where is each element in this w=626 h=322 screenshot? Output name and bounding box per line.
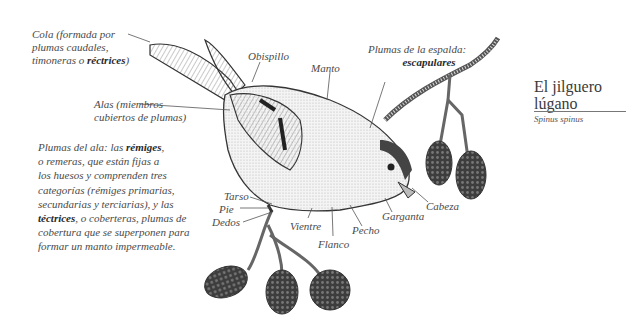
leader-obispillo — [252, 62, 260, 82]
leader-pecho — [350, 205, 362, 226]
label-alas: Alas (miembros cubiertos de plumas) — [94, 98, 186, 124]
leader-manto — [327, 72, 330, 100]
title-divider — [534, 111, 626, 112]
leader-flanco — [332, 207, 333, 236]
leader-escapulares — [370, 82, 385, 128]
label-vientre: Vientre — [290, 220, 321, 233]
alder-cone-lower-3 — [310, 270, 350, 310]
label-garganta: Garganta — [382, 210, 424, 223]
label-escapulares: Plumas de la espalda: escapulares — [368, 43, 466, 69]
label-pecho: Pecho — [352, 224, 379, 237]
alder-cone-upper-1 — [426, 141, 452, 185]
label-manto: Manto — [311, 62, 340, 75]
label-pie: Pie — [219, 203, 234, 216]
alder-cone-upper-2 — [456, 151, 486, 199]
label-tarso: Tarso — [224, 190, 249, 203]
label-dedos: Dedos — [212, 216, 240, 229]
leader-cola — [128, 34, 150, 42]
alder-cone-lower-1 — [200, 260, 252, 303]
alder-cone-lower-2 — [266, 270, 298, 314]
species-scientific-name: Spinus spinus — [534, 114, 583, 124]
wing-feathers-paragraph: Plumas del ala: las rémiges, o remeras, … — [38, 140, 190, 254]
species-common-name: El jilguero lúgano — [534, 78, 602, 112]
label-cola: Cola (formada por plumas caudales, timon… — [32, 28, 129, 67]
label-flanco: Flanco — [318, 238, 349, 251]
label-cabeza: Cabeza — [426, 200, 459, 213]
label-obispillo: Obispillo — [248, 50, 289, 63]
